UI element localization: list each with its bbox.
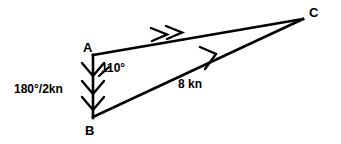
vertex-label-c: C [309, 6, 318, 19]
edge-ac-arrowheads [151, 26, 182, 41]
edge-label-ab: 180°/2kn [14, 83, 63, 95]
angle-label-a: 110° [101, 62, 125, 74]
edge-ac-line [93, 19, 303, 55]
vertex-label-a: A [83, 41, 92, 54]
vector-triangle-diagram: A B C 110° 8 kn 180°/2kn [0, 0, 341, 144]
diagram-canvas [0, 0, 341, 144]
vertex-label-b: B [85, 124, 94, 137]
edge-label-bc: 8 kn [178, 78, 202, 90]
